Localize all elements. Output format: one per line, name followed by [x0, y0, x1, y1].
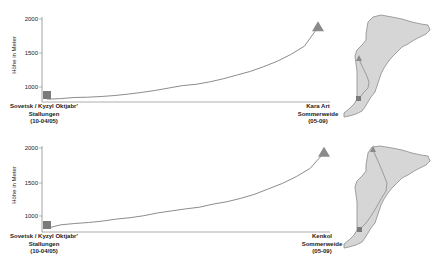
elevation-panel-kenkol: 2000 1500 1000 Höhe in Meter Sovetsk / K…	[0, 133, 441, 266]
elevation-panel-kara-art: 2000 1500 1000 Höhe in Meter Sovetsk / K…	[0, 0, 441, 133]
map-start-square-icon	[356, 96, 361, 101]
map-start-square-icon	[357, 227, 362, 232]
valley-map-shape	[344, 15, 430, 117]
region-map	[0, 0, 441, 133]
valley-map-shape	[344, 146, 430, 248]
region-map	[0, 133, 441, 266]
end-location-label: Kenkol Sommerweide (05-09)	[294, 233, 350, 256]
